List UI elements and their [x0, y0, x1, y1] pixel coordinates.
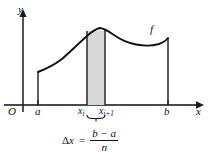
formula-delta-x: Δx [62, 135, 74, 146]
riemann-sum-figure: y x O a b f xi xi+1 Δx = b − a n [0, 0, 212, 156]
equals-sign: = [79, 135, 85, 146]
tick-label-xi-plus-1-subscript: i+1 [103, 110, 113, 118]
shaded-rectangle [87, 31, 105, 105]
fraction-numerator: b − a [90, 128, 118, 140]
fraction-denominator: n [99, 141, 109, 153]
function-label-f: f [150, 24, 153, 35]
tick-label-b: b [164, 106, 170, 117]
delta-x-formula: Δx = b − a n [62, 128, 118, 153]
origin-label: O [8, 106, 16, 117]
tick-label-a: a [35, 106, 41, 117]
y-axis-label: y [18, 4, 23, 15]
tick-label-xi: xi [78, 106, 84, 118]
x-axis-label: x [196, 106, 201, 117]
tick-label-xi-plus-1: xi+1 [99, 106, 114, 118]
tick-label-xi-subscript: i [82, 110, 84, 118]
fraction: b − a n [90, 128, 118, 153]
delta-variable: x [69, 134, 74, 146]
